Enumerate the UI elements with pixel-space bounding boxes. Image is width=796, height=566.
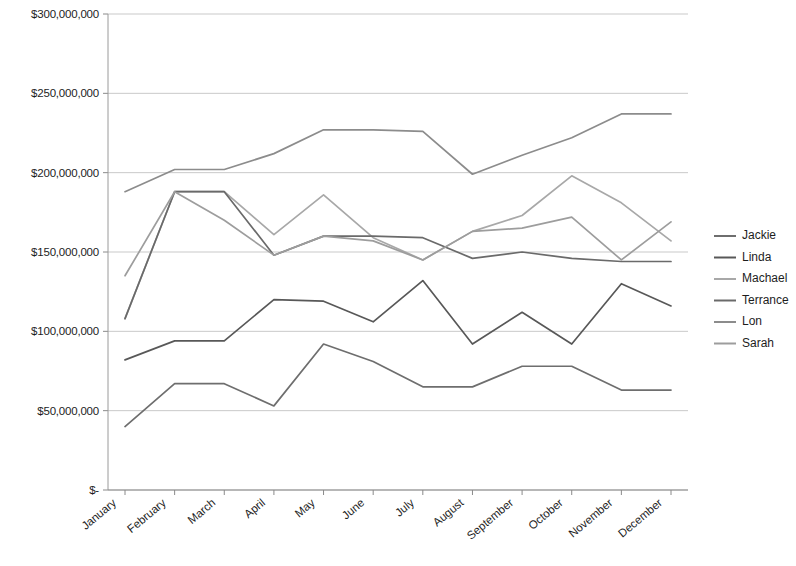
- series-line-machael[interactable]: [125, 176, 671, 319]
- legend-label-jackie[interactable]: Jackie: [742, 228, 776, 242]
- x-axis-tick-label: November: [566, 496, 614, 539]
- x-axis-tick-label: September: [465, 496, 516, 541]
- y-axis-tick-label: $250,000,000: [31, 87, 99, 99]
- chart-screenshot: $300,000,000$250,000,000$200,000,000$150…: [0, 0, 796, 566]
- y-axis-tick-label: $300,000,000: [31, 8, 99, 20]
- x-axis-labels: JanuaryFebruaryMarchAprilMayJuneJulyAugu…: [79, 490, 671, 542]
- series-line-sarah[interactable]: [125, 192, 671, 276]
- y-axis-tick-label: $100,000,000: [31, 325, 99, 337]
- x-axis-tick-label: April: [242, 496, 267, 520]
- x-axis-tick-label: August: [431, 496, 467, 529]
- y-axis-tick-label: $150,000,000: [31, 246, 99, 258]
- x-axis-tick-label: January: [79, 496, 118, 532]
- legend-label-lon[interactable]: Lon: [742, 314, 762, 328]
- line-chart: $300,000,000$250,000,000$200,000,000$150…: [0, 0, 796, 566]
- series-line-jackie[interactable]: [125, 344, 671, 427]
- x-axis-tick-label: October: [526, 496, 565, 532]
- series-line-lon[interactable]: [125, 114, 671, 192]
- series-group: [125, 114, 671, 427]
- legend-label-linda[interactable]: Linda: [742, 250, 772, 264]
- x-axis-tick-label: February: [125, 496, 168, 535]
- y-axis-tick-label: $-: [89, 484, 99, 496]
- x-axis-tick-label: March: [185, 496, 217, 526]
- legend-label-terrance[interactable]: Terrance: [742, 293, 789, 307]
- y-axis-tick-label: $200,000,000: [31, 167, 99, 179]
- y-axis-tick-label: $50,000,000: [37, 405, 99, 417]
- x-axis-tick-label: December: [616, 496, 664, 539]
- legend: JackieLindaMachaelTerranceLonSarah: [714, 228, 789, 350]
- legend-label-machael[interactable]: Machael: [742, 271, 787, 285]
- legend-label-sarah[interactable]: Sarah: [742, 336, 774, 350]
- x-axis-tick-label: May: [292, 496, 317, 519]
- x-axis-tick-label: June: [340, 496, 367, 521]
- series-line-linda[interactable]: [125, 281, 671, 360]
- x-axis-tick-label: July: [393, 496, 417, 518]
- chart-canvas: $300,000,000$250,000,000$200,000,000$150…: [0, 0, 796, 566]
